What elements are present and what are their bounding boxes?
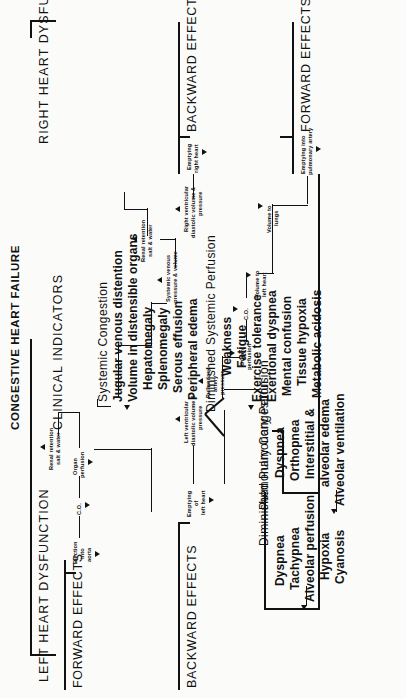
rotated-page: CONGESTIVE HEART FAILURE LEFT HEART DYSF… bbox=[0, 0, 406, 698]
rule-renal-right-top bbox=[124, 192, 125, 210]
group-label-systemic-congestion: Systemic Congestion bbox=[97, 282, 109, 402]
label-renal-retention-right-1: Renal retention bbox=[140, 220, 146, 262]
caption-right-forward: FORWARD EFFECTS bbox=[300, 0, 313, 132]
arrow-exercise-tolerance bbox=[248, 405, 254, 410]
label-cardiac-output-right: C.O. bbox=[243, 308, 249, 320]
label-rv-diastolic-1: Right ventricular bbox=[183, 186, 189, 232]
label-emptying-right-heart-2: right heart bbox=[193, 144, 199, 173]
rule-right-forward bbox=[292, 22, 294, 174]
caption-right-backward: BACKWARD EFFECTS bbox=[186, 0, 199, 132]
label-emptying-right-heart-1: Emptying bbox=[186, 144, 192, 170]
tick-right-forward bbox=[280, 136, 292, 138]
stub-group-2 bbox=[224, 410, 225, 436]
indicator-serous-effusion: Serous effusion bbox=[172, 301, 184, 393]
riser-rvedp bbox=[160, 239, 176, 240]
rule-leftheart-to-co bbox=[246, 274, 247, 298]
indicator-interstitial: Interstitial & bbox=[304, 408, 316, 479]
riser-renal-right bbox=[124, 209, 148, 210]
label-emptying-pulm-artery-2: pulmonary artery bbox=[307, 128, 313, 175]
indicator-alveolar-edema: alveolar edema bbox=[319, 399, 331, 487]
indicator-hepatomegaly: Hepatomegaly bbox=[142, 307, 154, 390]
arrow-systemic-venous-up bbox=[157, 277, 162, 283]
bracket-systemic-congestion-cap bbox=[97, 399, 98, 407]
bracket-systemic-congestion bbox=[97, 406, 111, 407]
indicator-splenomegaly: Splenomegaly bbox=[157, 307, 169, 390]
indicator-fatigue: Fatigue bbox=[236, 325, 248, 368]
rule-renal-right bbox=[147, 208, 148, 236]
indicator-mental-confusion: Mental confusion bbox=[281, 296, 293, 396]
indicator-metabolic-acidosis: Metabolic acidosis bbox=[311, 290, 323, 399]
indicator-weakness: Weakness bbox=[221, 317, 233, 376]
enclosure-top bbox=[264, 492, 266, 610]
riser-systemic-venous bbox=[151, 303, 167, 304]
label-rv-diastolic-3: pressure bbox=[197, 192, 203, 216]
label-systemic-venous-2: pressure & volume bbox=[172, 251, 178, 303]
indicator-orthopnea: Orthopnea bbox=[289, 419, 301, 481]
rule-right-backward bbox=[178, 22, 180, 174]
arrow-emptying-right-down bbox=[202, 149, 207, 155]
indicator-tissue-hypoxia: Tissue hypoxia bbox=[296, 298, 308, 386]
diagram-canvas: CONGESTIVE HEART FAILURE LEFT HEART DYSF… bbox=[0, 0, 406, 698]
label-rv-diastolic-2: diastolic volume & bbox=[190, 187, 196, 238]
rule-lungvol-to-leftheart bbox=[272, 204, 273, 274]
rule-pulm-to-lungvol bbox=[307, 176, 308, 204]
stub-group-3 bbox=[336, 490, 337, 512]
stub-group-4 bbox=[306, 586, 307, 606]
arrow-volume-lungs-down bbox=[258, 203, 263, 209]
label-emptying-pulm-artery-1: Emptying into bbox=[300, 135, 306, 174]
enclosure-bottom bbox=[318, 492, 320, 610]
indicator-dyspnea-pulm: Dyspnea bbox=[274, 427, 286, 478]
arrow-emptying-pulm-down bbox=[316, 146, 321, 152]
label-systemic-venous-1: Systemic venous bbox=[165, 255, 171, 302]
rule-left-backward-to-center bbox=[224, 436, 225, 484]
tick-right-backward bbox=[178, 136, 190, 138]
arrow-rvedp-up bbox=[175, 206, 180, 212]
group-label-diminished-systemic-perfusion: Diminished Systemic Perfusion bbox=[205, 235, 217, 412]
riser-return-bottom bbox=[282, 492, 320, 494]
enclosure-left bbox=[264, 608, 320, 610]
indicator-hypoxia: Hypoxia bbox=[319, 533, 331, 580]
indicator-volume-distensible-organs: Volume in distensible organs bbox=[127, 233, 139, 402]
indicator-tachypnea: Tachypnea bbox=[289, 527, 301, 590]
indicator-jugular-venous-distention: Jugular venous distention bbox=[112, 250, 124, 402]
arrow-volume-distensible bbox=[124, 405, 130, 410]
riser-lung-volume bbox=[272, 205, 308, 206]
indicator-dyspnea-perf: Dyspnea bbox=[274, 535, 286, 586]
indicator-cyanosis: Cyanosis bbox=[334, 530, 346, 584]
arrow-co-down-right bbox=[233, 306, 238, 312]
indicator-peripheral-edema: Peripheral edema bbox=[187, 298, 199, 400]
fan-lines-left-backward bbox=[0, 0, 406, 698]
label-volume-to-lungs-2: lungs bbox=[273, 211, 279, 226]
